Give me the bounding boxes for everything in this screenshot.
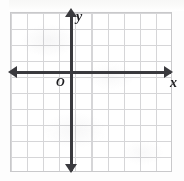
x-axis-left-arrowhead-icon	[8, 66, 17, 78]
paper-top-edge	[0, 0, 184, 11]
y-axis-line	[70, 14, 73, 171]
origin-label: O	[56, 76, 65, 88]
y-axis-label: y	[76, 10, 82, 24]
coordinate-plane-figure: y x O	[0, 0, 184, 181]
x-axis-line	[11, 71, 171, 74]
paper-left-edge	[0, 0, 9, 181]
grid-box	[10, 12, 172, 172]
x-axis-label: x	[170, 76, 177, 90]
y-axis-down-arrowhead-icon	[65, 164, 77, 173]
